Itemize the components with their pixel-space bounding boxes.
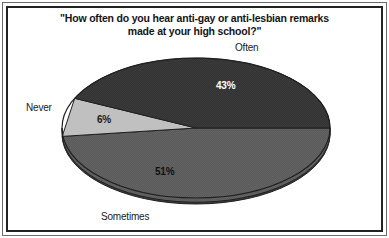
slice-label-sometimes: Sometimes (101, 211, 149, 222)
pie-chart-screenshot: "How often do you hear anti-gay or anti-… (0, 0, 389, 238)
slice-value-never: 6% (97, 114, 111, 125)
pie-slice-sometimes[interactable] (62, 128, 330, 202)
slice-value-often: 43% (216, 80, 235, 91)
slice-label-often: Often (235, 42, 258, 53)
pie-graphic (0, 0, 389, 238)
slice-value-sometimes: 51% (155, 166, 174, 177)
slice-label-never: Never (26, 102, 52, 113)
plot-area: 43% 6% 51% Often Never Sometimes (0, 0, 389, 238)
